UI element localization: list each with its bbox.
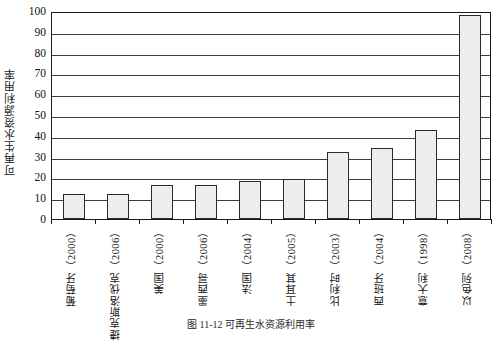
x-tick-label: 墨西哥（2006） [199,226,210,306]
x-tick-mark [315,219,316,224]
x-tick-mark [51,219,52,224]
y-tick-label: 90 [35,27,47,39]
y-tick-label: 50 [35,110,47,122]
y-tick-label: 70 [35,69,47,81]
bar [239,181,261,219]
y-tick-label: 20 [35,173,47,185]
bar [151,185,173,219]
y-axis-tick-labels: 0102030405060708090100 [16,12,50,220]
x-axis-tick-marks [51,219,491,225]
x-tick-label: 西班牙（2004） [375,226,386,306]
bar [459,15,481,219]
bar [107,194,129,219]
x-tick-mark [447,219,448,224]
x-tick-mark [491,219,492,224]
y-tick-label: 80 [35,48,47,60]
x-tick-mark [227,219,228,224]
bar [63,194,85,219]
x-tick-mark [183,219,184,224]
x-tick-label: 以色列（2008） [463,226,474,306]
x-tick-label: 意大利（1998） [419,226,430,306]
bar-series [52,13,490,219]
bar [327,152,349,219]
x-tick-mark [95,219,96,224]
x-tick-mark [271,219,272,224]
x-tick-label: 法国（2004） [243,226,254,294]
x-tick-mark [403,219,404,224]
y-tick-label: 60 [35,89,47,101]
figure-caption: 图 11-12 可再生水资源利用率 [0,316,502,331]
x-axis-category-labels: 葡萄牙（2000）捷克斯洛伐克（2006）美国（2000）墨西哥（2006）法国… [51,226,491,312]
x-tick-label: 比利时（2003） [331,226,342,306]
x-tick-mark [139,219,140,224]
y-tick-label: 30 [35,152,47,164]
y-tick-label: 0 [40,214,46,226]
plot-area [51,12,491,220]
x-tick-label: 葡萄牙（2000） [67,226,78,306]
bar [283,179,305,219]
bar [195,185,217,219]
x-tick-label: 土耳其（2005） [287,226,298,306]
bar [415,130,437,219]
x-tick-label: 美国（2000） [155,226,166,294]
y-tick-label: 40 [35,131,47,143]
y-tick-label: 10 [35,193,47,205]
y-tick-label: 100 [29,6,46,18]
x-tick-mark [359,219,360,224]
bar [371,148,393,219]
